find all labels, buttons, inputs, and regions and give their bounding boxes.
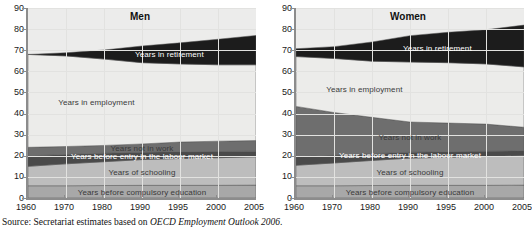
x-axis-men: 1960197019801990199520002005 <box>0 199 262 213</box>
band-label-employment: Years in employment <box>58 98 134 107</box>
y-tick-mark <box>22 29 26 30</box>
gridline-vertical <box>372 8 373 198</box>
y-tick-label: 90 <box>0 4 24 13</box>
x-tick-label: 1960 <box>284 202 304 212</box>
band-label-before-compulsory: Years before compulsory education <box>78 187 206 196</box>
y-tick-label: 10 <box>0 172 24 181</box>
x-tick-mark <box>332 195 333 199</box>
y-tick-mark <box>22 135 26 136</box>
source-text: Secretariat estimates based on <box>33 217 150 227</box>
y-tick-label: 60 <box>0 67 24 76</box>
x-tick-label: 2000 <box>474 202 494 212</box>
y-tick-mark <box>22 71 26 72</box>
x-tick-mark <box>140 195 141 199</box>
y-tick-mark <box>290 135 294 136</box>
x-tick-label: 1995 <box>436 202 456 212</box>
x-tick-label: 2005 <box>244 202 264 212</box>
x-tick-mark <box>370 195 371 199</box>
band-label-retirement: Years in retirement <box>135 49 204 58</box>
y-tick-mark <box>22 50 26 51</box>
x-tick-mark <box>178 195 179 199</box>
x-tick-mark <box>408 195 409 199</box>
y-tick-mark <box>22 156 26 157</box>
y-tick-label: 40 <box>0 109 24 118</box>
band-label-retirement: Years in retirement <box>403 43 472 52</box>
y-axis-women: 0102030405060708090 <box>268 0 292 212</box>
x-axis-women: 1960197019801990199520002005 <box>265 199 531 213</box>
y-tick-label: 80 <box>268 25 292 34</box>
band-label-before-entry: Years before entry in the labour market <box>71 151 213 160</box>
y-tick-mark <box>290 71 294 72</box>
chart-panel-men: 0102030405060708090 Years before compuls… <box>0 0 262 212</box>
x-tick-label: 1980 <box>92 202 112 212</box>
y-tick-label: 20 <box>0 151 24 160</box>
y-tick-label: 90 <box>268 4 292 13</box>
gridline-vertical <box>334 8 335 198</box>
gridline-vertical <box>486 8 487 198</box>
y-tick-label: 80 <box>0 25 24 34</box>
y-tick-mark <box>290 92 294 93</box>
source-text-end: . <box>280 217 282 227</box>
x-tick-mark <box>64 195 65 199</box>
source-prefix: Source: <box>2 217 33 227</box>
y-tick-mark <box>290 114 294 115</box>
gridline-vertical <box>218 8 219 198</box>
y-tick-mark <box>22 8 26 9</box>
band-label-before-entry: Years before entry in the labour market <box>339 151 481 160</box>
x-tick-mark <box>446 195 447 199</box>
panel-title-men: Men <box>130 11 150 22</box>
x-tick-label: 2005 <box>512 202 532 212</box>
y-tick-label: 60 <box>268 67 292 76</box>
y-tick-label: 70 <box>0 46 24 55</box>
y-tick-mark <box>22 177 26 178</box>
band-label-employment: Years in employment <box>326 84 402 93</box>
band-label-not-in-work: Years not in work <box>379 133 442 142</box>
band-label-schooling: Years of schooling <box>109 168 176 177</box>
x-tick-label: 1990 <box>130 202 150 212</box>
y-tick-mark <box>290 198 294 199</box>
x-tick-mark <box>102 195 103 199</box>
x-tick-label: 1970 <box>54 202 74 212</box>
y-axis-men: 0102030405060708090 <box>0 0 24 212</box>
y-tick-label: 10 <box>268 172 292 181</box>
y-tick-mark <box>290 156 294 157</box>
x-tick-label: 2000 <box>206 202 226 212</box>
y-tick-mark <box>22 198 26 199</box>
y-tick-mark <box>290 50 294 51</box>
x-tick-label: 1960 <box>16 202 36 212</box>
plot-area-men: Years before compulsory educationYears o… <box>26 8 256 200</box>
x-tick-mark <box>484 195 485 199</box>
source-publication: OECD Employment Outlook 2006 <box>150 217 280 227</box>
source-note: Source: Secretariat estimates based on O… <box>2 216 529 228</box>
gridline-vertical <box>448 8 449 198</box>
y-tick-mark <box>22 92 26 93</box>
y-tick-label: 50 <box>0 88 24 97</box>
x-tick-label: 1995 <box>168 202 188 212</box>
gridline-vertical <box>180 8 181 198</box>
chart-panel-women: 0102030405060708090 Years before compuls… <box>265 0 531 212</box>
x-tick-label: 1970 <box>322 202 342 212</box>
y-tick-mark <box>290 8 294 9</box>
band-label-not-in-work: Years not in work <box>111 144 174 153</box>
y-tick-label: 50 <box>268 88 292 97</box>
x-tick-mark <box>216 195 217 199</box>
y-tick-label: 30 <box>268 130 292 139</box>
y-tick-label: 70 <box>268 46 292 55</box>
y-tick-label: 40 <box>268 109 292 118</box>
y-tick-mark <box>22 114 26 115</box>
x-tick-label: 1990 <box>398 202 418 212</box>
x-tick-label: 1980 <box>360 202 380 212</box>
y-tick-label: 20 <box>268 151 292 160</box>
y-tick-mark <box>290 29 294 30</box>
y-tick-label: 30 <box>0 130 24 139</box>
plot-area-women: Years before compulsory educationYears o… <box>294 8 524 200</box>
band-label-schooling: Years of schooling <box>377 167 444 176</box>
y-tick-mark <box>290 177 294 178</box>
band-label-before-compulsory: Years before compulsory education <box>346 187 474 196</box>
panel-title-women: Women <box>390 11 426 22</box>
